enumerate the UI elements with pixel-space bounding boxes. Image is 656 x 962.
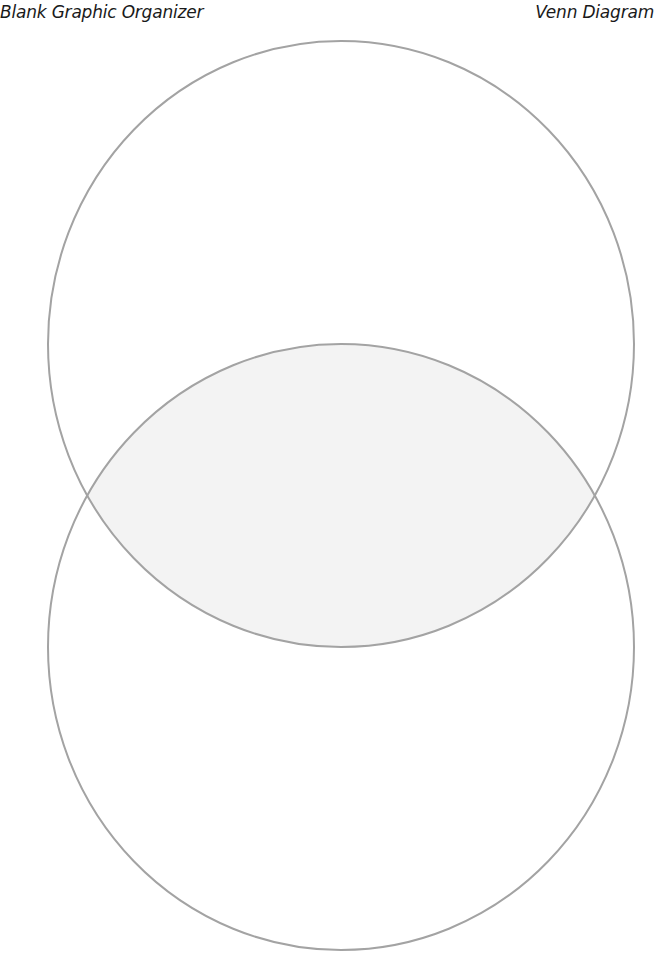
venn-diagram [0, 0, 656, 962]
